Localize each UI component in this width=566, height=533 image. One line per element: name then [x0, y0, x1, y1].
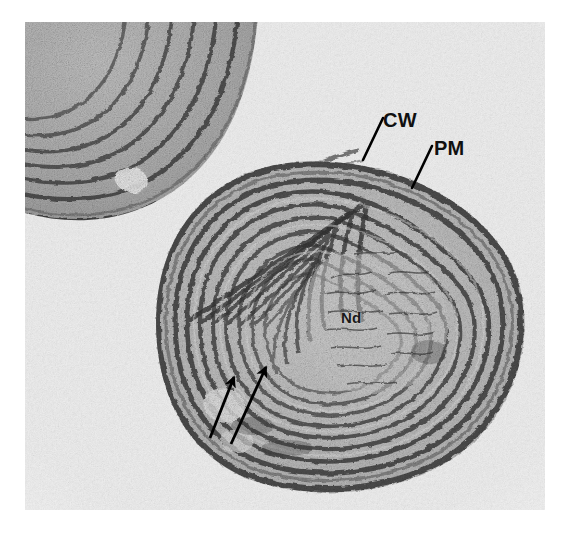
plasma-membrane-label: PM [434, 138, 464, 158]
micrograph-content [25, 22, 545, 510]
figure-page: CW PM Nd [0, 0, 566, 533]
nucleoid-label: Nd [341, 310, 361, 325]
cell-wall-label: CW [383, 110, 417, 130]
electron-micrograph-plate [25, 22, 545, 510]
